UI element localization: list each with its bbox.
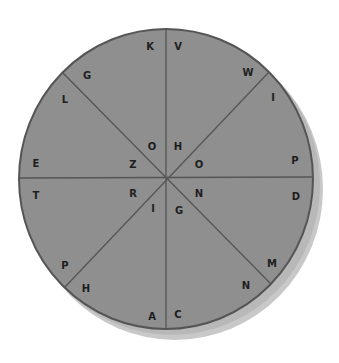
inner-letter-r: R	[129, 188, 137, 199]
outer-letter-m: M	[267, 258, 277, 269]
outer-letter-g1: G	[83, 70, 91, 81]
outer-letter-n2: N	[242, 280, 250, 291]
inner-letter-n1: N	[195, 188, 203, 199]
outer-letter-l: L	[62, 94, 69, 105]
inner-letter-i2: I	[151, 203, 155, 214]
outer-letter-d: D	[292, 191, 300, 202]
outer-letter-t: T	[33, 190, 40, 201]
inner-letter-z: Z	[129, 159, 136, 170]
letter-wheel-diagram: KVWIPDMNCAHPTELG OHONGIRZ	[0, 0, 339, 363]
outer-letter-a: A	[148, 311, 156, 322]
inner-letter-o1: O	[148, 141, 157, 152]
outer-letter-c: C	[174, 309, 181, 320]
inner-letter-h1: H	[174, 141, 182, 152]
outer-letter-i1: I	[271, 92, 275, 103]
outer-letter-p1: P	[291, 155, 298, 166]
inner-letter-o2: O	[195, 159, 204, 170]
inner-letter-g2: G	[175, 205, 183, 216]
outer-letter-p2: P	[61, 260, 68, 271]
outer-letter-h2: H	[82, 283, 90, 294]
outer-letter-k: K	[146, 41, 155, 52]
outer-letter-v: V	[174, 41, 182, 52]
outer-letter-w: W	[242, 67, 253, 78]
outer-letter-e: E	[33, 158, 40, 169]
